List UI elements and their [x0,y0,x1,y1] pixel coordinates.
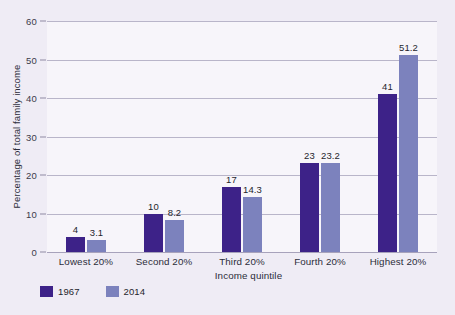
legend-label: 1967 [58,286,80,297]
y-tick-label: 0 [7,247,37,258]
bar-value-label: 8.2 [168,207,182,218]
y-axis: 0102030405060 [0,0,47,260]
x-axis-title-text: Income quintile [215,270,282,281]
bar-value-label: 41 [382,81,393,92]
bar-2014-1 [87,240,106,252]
gridline [47,21,437,22]
x-tick-label: Fourth 20% [294,256,346,267]
bar-2014-3 [243,197,262,252]
legend-swatch-icon [106,286,119,297]
bar-chart-figure: Percentage of total family income 010203… [0,0,455,315]
bar-2014-2 [165,220,184,252]
bar-1967-2 [144,214,163,253]
y-tick-label: 30 [7,131,37,142]
gridline [47,252,437,253]
x-tick-label: Second 20% [136,256,193,267]
bar-2014-5 [399,55,418,252]
bar-value-label: 3.1 [90,227,104,238]
y-tick-mark [40,98,46,99]
bar-value-label: 51.2 [399,42,418,53]
legend-swatch-icon [40,286,53,297]
bar-value-label: 10 [148,201,159,212]
x-axis-title: Income quintile [0,270,455,281]
bar-1967-4 [300,163,319,252]
bar-2014-4 [321,163,340,252]
y-tick-mark [40,59,46,60]
y-tick-label: 20 [7,170,37,181]
y-tick-label: 60 [7,16,37,27]
plot-area: 43.1108.21714.32323.24151.2 [47,21,437,252]
x-tick-label: Third 20% [219,256,265,267]
legend-item-1967[interactable]: 1967 [40,286,80,297]
x-tick-label: Lowest 20% [59,256,113,267]
bar-1967-1 [66,237,85,252]
y-tick-label: 50 [7,54,37,65]
y-tick-label: 40 [7,93,37,104]
bar-1967-5 [378,94,397,252]
y-tick-mark [40,213,46,214]
y-tick-mark [40,175,46,176]
y-tick-mark [40,252,46,253]
bar-1967-3 [222,187,241,252]
legend-item-2014[interactable]: 2014 [106,286,146,297]
y-tick-mark [40,136,46,137]
chart-legend: 19672014 [40,286,145,297]
gridline [47,60,437,61]
y-tick-label: 10 [7,208,37,219]
bar-value-label: 23.2 [321,150,340,161]
legend-label: 2014 [124,286,146,297]
x-tick-label: Highest 20% [370,256,427,267]
bar-value-label: 17 [226,174,237,185]
bar-value-label: 4 [73,224,78,235]
bar-value-label: 14.3 [243,184,262,195]
y-tick-mark [40,21,46,22]
bar-value-label: 23 [304,150,315,161]
